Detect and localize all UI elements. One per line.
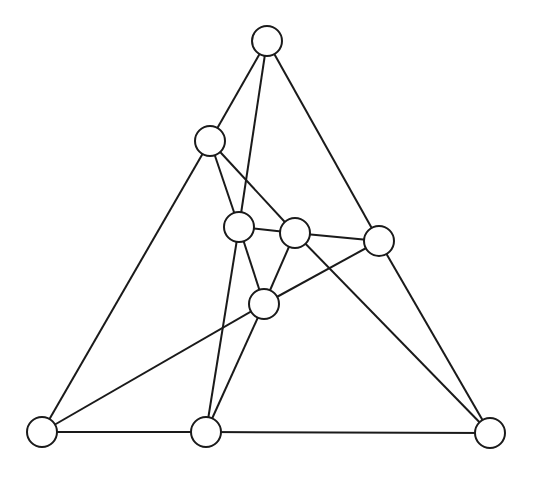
edge-D-H (206, 227, 239, 432)
edge-A-F (267, 41, 379, 241)
node-H (191, 417, 221, 447)
node-E (280, 218, 310, 248)
node-F (364, 226, 394, 256)
edge-B-J (42, 141, 210, 432)
edge-G-H (206, 304, 264, 432)
edge-F-G (264, 241, 379, 304)
node-B (195, 126, 225, 156)
nodes-layer (27, 26, 505, 448)
node-J (27, 417, 57, 447)
edges-layer (42, 41, 490, 433)
edge-H-I (206, 432, 490, 433)
edge-A-B (210, 41, 267, 141)
edge-G-J (42, 304, 264, 432)
node-A (252, 26, 282, 56)
node-G (249, 289, 279, 319)
node-D (224, 212, 254, 242)
graph-diagram (0, 0, 536, 477)
node-I (475, 418, 505, 448)
